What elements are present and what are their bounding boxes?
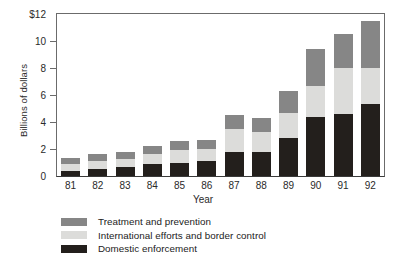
bar-segment xyxy=(334,114,353,176)
bar-segment xyxy=(143,154,162,163)
bar-segment xyxy=(361,104,380,176)
y-axis-label: 6 xyxy=(0,90,46,101)
bar-segment xyxy=(143,164,162,176)
bar-segment xyxy=(252,118,271,132)
bar-column[interactable] xyxy=(279,91,298,176)
bar-segment xyxy=(225,115,244,129)
bar-segment xyxy=(143,146,162,154)
legend-item[interactable]: Domestic enforcement xyxy=(61,243,266,254)
bar-segment xyxy=(88,169,107,176)
bar-column[interactable] xyxy=(88,154,107,176)
bar-segment xyxy=(197,149,216,161)
bar-segment xyxy=(334,34,353,68)
bar-segment xyxy=(252,152,271,176)
bar-segment xyxy=(306,117,325,176)
bar-segment xyxy=(116,167,135,176)
legend-swatch xyxy=(61,218,87,226)
legend-swatch xyxy=(61,231,87,239)
x-axis-title: Year xyxy=(0,194,406,205)
bar-segment xyxy=(252,132,271,152)
legend-item[interactable]: International efforts and border control xyxy=(61,230,266,241)
y-axis-label: 10 xyxy=(0,36,46,47)
bar-segment xyxy=(279,138,298,176)
legend-swatch xyxy=(61,245,87,253)
bar-column[interactable] xyxy=(61,158,80,176)
legend-label: Treatment and prevention xyxy=(98,216,211,227)
bar-column[interactable] xyxy=(116,152,135,176)
bar-segment xyxy=(197,161,216,176)
bar-segment xyxy=(225,152,244,176)
bar-segment xyxy=(334,68,353,114)
legend-label: Domestic enforcement xyxy=(98,243,197,254)
bar-segment xyxy=(170,163,189,177)
stacked-bar-chart: Billions of dollars 0246810$12 818283848… xyxy=(0,0,406,270)
bar-segment xyxy=(279,113,298,139)
bar-column[interactable] xyxy=(306,49,325,176)
bar-segment xyxy=(306,49,325,86)
y-axis-label: 4 xyxy=(0,117,46,128)
legend-item[interactable]: Treatment and prevention xyxy=(61,216,266,227)
y-axis-label: $12 xyxy=(0,9,46,20)
bar-column[interactable] xyxy=(143,146,162,176)
bar-segment xyxy=(170,141,189,150)
bar-segment xyxy=(88,161,107,168)
bar-segment xyxy=(116,159,135,167)
y-axis-label: 8 xyxy=(0,63,46,74)
bar-column[interactable] xyxy=(361,21,380,176)
legend-label: International efforts and border control xyxy=(98,230,266,241)
bar-segment xyxy=(225,129,244,151)
bar-column[interactable] xyxy=(170,141,189,176)
bar-segment xyxy=(279,91,298,113)
chart-legend: Treatment and preventionInternational ef… xyxy=(61,216,266,254)
bar-segment xyxy=(88,154,107,161)
bar-column[interactable] xyxy=(334,34,353,176)
bar-segment xyxy=(61,171,80,176)
y-axis-label: 0 xyxy=(0,171,46,182)
x-axis-label: 92 xyxy=(350,180,390,191)
bar-segment xyxy=(361,68,380,104)
bar-column[interactable] xyxy=(252,118,271,176)
bar-series-group xyxy=(57,14,384,176)
bar-segment xyxy=(170,150,189,162)
bar-segment xyxy=(197,140,216,149)
bar-segment xyxy=(306,86,325,117)
bar-column[interactable] xyxy=(225,115,244,176)
bar-segment xyxy=(361,21,380,68)
bar-segment xyxy=(61,164,80,171)
bar-column[interactable] xyxy=(197,140,216,176)
bar-segment xyxy=(116,152,135,159)
y-axis-label: 2 xyxy=(0,144,46,155)
